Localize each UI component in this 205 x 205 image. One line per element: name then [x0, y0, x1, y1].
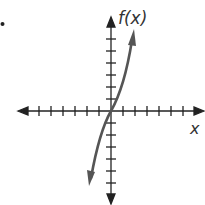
y-axis-label: f(x) [118, 8, 147, 28]
y-axis-down-arrow-icon [107, 194, 115, 204]
y-axis-up-arrow-icon [107, 17, 115, 27]
curve-top-arrow-icon [128, 29, 136, 46]
x-axis-left-arrow-icon [18, 107, 28, 115]
function-graph: f(x) x [0, 0, 205, 205]
problem-bullet [1, 22, 5, 26]
x-axis-label: x [189, 119, 200, 138]
x-axis-right-arrow-icon [194, 107, 204, 115]
curve-bottom-arrow-icon [87, 170, 95, 186]
